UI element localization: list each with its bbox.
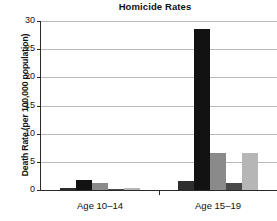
y-tick-label-25: 25 <box>9 44 35 53</box>
y-tick-label-15: 15 <box>9 101 35 110</box>
y-tick-label-0: 0 <box>9 185 35 194</box>
x-axis-group-separator <box>159 190 160 195</box>
gridline-20 <box>41 77 277 78</box>
bar-group-2-series-5 <box>242 153 258 190</box>
x-axis-line <box>37 190 277 191</box>
x-axis-category-label-1: Age 10–14 <box>41 200 159 211</box>
bar-group-2-series-3 <box>210 153 226 190</box>
gridline-25 <box>41 49 277 50</box>
chart-title: Homicide Rates <box>40 1 270 13</box>
bar-group-1-series-2 <box>76 180 92 190</box>
gridline-15 <box>41 106 277 107</box>
bar-group-2-series-2 <box>194 29 210 190</box>
bar-group-2-series-4 <box>226 183 242 190</box>
y-tick-label-10: 10 <box>9 129 35 138</box>
y-tick-label-20: 20 <box>9 72 35 81</box>
y-tick-label-30: 30 <box>9 16 35 25</box>
gridline-10 <box>41 134 277 135</box>
y-axis-line <box>40 21 41 190</box>
bar-group-2-series-1 <box>178 181 194 190</box>
x-axis-category-label-2: Age 15–19 <box>159 200 277 211</box>
bar-group-1-series-3 <box>92 183 108 190</box>
y-tick-label-5: 5 <box>9 157 35 166</box>
gridline-30 <box>41 21 277 22</box>
plot-area: 051015202530 Age 10–14Age 15–19 <box>41 21 277 190</box>
homicide-rates-bar-chart: Homicide Rates Death Rate (per 100,000 p… <box>0 0 277 221</box>
